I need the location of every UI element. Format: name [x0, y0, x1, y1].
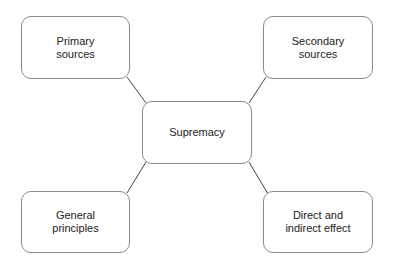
edge-supremacy-secondary: [249, 77, 266, 103]
node-label: General principles: [52, 209, 98, 235]
node-secondary-sources: Secondary sources: [263, 16, 373, 79]
node-general-principles: General principles: [21, 191, 130, 253]
node-label: Primary sources: [56, 35, 95, 61]
node-label: Secondary sources: [292, 35, 345, 61]
edge-supremacy-direct: [249, 162, 268, 194]
edge-supremacy-general: [127, 162, 146, 193]
node-label: Supremacy: [169, 126, 225, 139]
node-label: Direct and indirect effect: [285, 209, 350, 235]
mind-map-diagram: Primary sources Secondary sources Suprem…: [0, 0, 394, 267]
node-supremacy-center: Supremacy: [142, 101, 252, 164]
node-direct-indirect-effect: Direct and indirect effect: [263, 191, 373, 253]
edge-supremacy-primary: [127, 77, 146, 103]
node-primary-sources: Primary sources: [21, 16, 130, 79]
